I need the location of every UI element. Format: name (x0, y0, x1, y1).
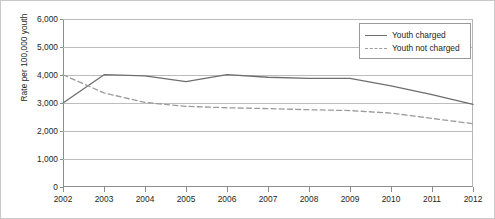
legend-line-dashed-icon (365, 44, 387, 52)
legend-line-solid-icon (365, 31, 387, 39)
x-tick-mark (391, 187, 392, 192)
x-tick-mark (186, 187, 187, 192)
x-tick-label: 2005 (177, 194, 196, 204)
series-line-youth-not-charged (63, 75, 473, 124)
legend-label: Youth charged (392, 30, 446, 40)
x-tick-label: 2012 (464, 194, 483, 204)
x-tick-label: 2003 (95, 194, 114, 204)
x-tick-mark (473, 187, 474, 192)
x-tick-label: 2007 (259, 194, 278, 204)
x-tick-mark (63, 187, 64, 192)
y-tick-label: 4,000 (37, 70, 58, 80)
x-tick-mark (104, 187, 105, 192)
y-tick-label: 2,000 (37, 126, 58, 136)
chart-container: Rate per 100,000 youth 01,0002,0003,0004… (0, 0, 495, 219)
y-axis-title: Rate per 100,000 youth (20, 0, 29, 133)
legend-item-youth-charged: Youth charged (365, 28, 465, 41)
x-tick-mark (227, 187, 228, 192)
y-tick-label: 1,000 (37, 154, 58, 164)
x-tick-mark (432, 187, 433, 192)
x-tick-mark (268, 187, 269, 192)
y-tick-label: 6,000 (37, 14, 58, 24)
x-tick-label: 2009 (341, 194, 360, 204)
legend-item-youth-not-charged: Youth not charged (365, 41, 465, 54)
x-tick-label: 2004 (136, 194, 155, 204)
y-tick-label: 5,000 (37, 42, 58, 52)
series-line-youth-charged (63, 75, 473, 105)
chart-legend: Youth charged Youth not charged (359, 23, 471, 59)
x-tick-mark (309, 187, 310, 192)
x-tick-label: 2002 (54, 194, 73, 204)
legend-label: Youth not charged (392, 43, 460, 53)
x-tick-label: 2010 (382, 194, 401, 204)
x-tick-label: 2011 (423, 194, 441, 204)
y-tick-label: 0 (53, 182, 58, 192)
x-tick-mark (350, 187, 351, 192)
x-tick-mark (145, 187, 146, 192)
x-tick-label: 2006 (218, 194, 237, 204)
y-tick-label: 3,000 (37, 98, 58, 108)
x-tick-label: 2008 (300, 194, 319, 204)
